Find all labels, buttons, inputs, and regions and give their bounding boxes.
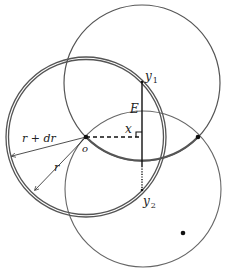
label-y2: y2 [142, 194, 156, 210]
label-E: E [129, 102, 139, 116]
label-o: o [82, 143, 88, 154]
point-y2 [141, 189, 144, 192]
point-lower-dot [181, 231, 186, 236]
point-right-intersection [196, 135, 201, 140]
point-y1 [141, 81, 144, 84]
label-r: r [54, 161, 60, 174]
shell-theorem-diagram: y1 y2 E x o r + dr r [0, 0, 225, 271]
label-x: x [125, 122, 132, 136]
right-angle-mark [136, 132, 142, 137]
label-r-plus-dr: r + dr [22, 132, 57, 145]
point-o [84, 135, 89, 140]
label-y1: y1 [144, 69, 158, 85]
diagram-svg: y1 y2 E x o r + dr r [0, 0, 225, 271]
